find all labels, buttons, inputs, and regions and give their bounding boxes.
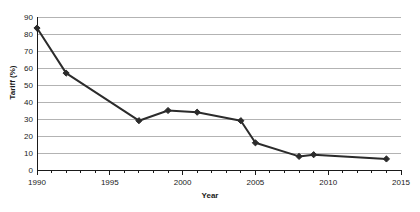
svg-text:0: 0 — [29, 166, 34, 175]
svg-text:90: 90 — [24, 13, 33, 22]
svg-text:60: 60 — [24, 64, 33, 73]
svg-text:2000: 2000 — [174, 178, 192, 187]
svg-text:50: 50 — [24, 81, 33, 90]
svg-text:80: 80 — [24, 30, 33, 39]
svg-text:10: 10 — [24, 149, 33, 158]
tariff-line-chart: 0102030405060708090 19901995200020052010… — [0, 0, 420, 212]
svg-text:70: 70 — [24, 47, 33, 56]
svg-text:30: 30 — [24, 115, 33, 124]
y-axis-title-wrap: Tariff (%) — [2, 0, 18, 212]
svg-text:20: 20 — [24, 132, 33, 141]
svg-text:2015: 2015 — [392, 178, 410, 187]
axis-lines — [37, 17, 401, 170]
svg-text:2005: 2005 — [247, 178, 265, 187]
y-axis-tick-labels: 0102030405060708090 — [24, 13, 33, 175]
chart-canvas: 0102030405060708090 19901995200020052010… — [0, 0, 420, 212]
data-series-line — [37, 28, 386, 159]
svg-text:40: 40 — [24, 98, 33, 107]
gridline-group — [37, 17, 401, 170]
x-axis-title: Year — [0, 191, 420, 200]
x-axis-tick-labels: 199019952000200520102015 — [28, 178, 410, 187]
x-axis-ticks — [37, 170, 401, 175]
data-series-markers — [34, 25, 390, 162]
y-axis-title: Tariff (%) — [8, 45, 17, 121]
svg-text:1990: 1990 — [28, 178, 46, 187]
svg-text:2010: 2010 — [319, 178, 337, 187]
svg-text:1995: 1995 — [101, 178, 119, 187]
